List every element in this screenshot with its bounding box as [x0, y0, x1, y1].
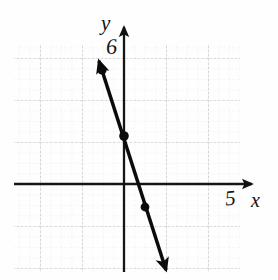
- x-axis-tick-label: 5: [224, 188, 237, 210]
- major-gridlines: [14, 44, 240, 272]
- graph-figure: y x 6 5: [0, 0, 278, 280]
- data-point: [97, 65, 106, 74]
- data-point: [141, 203, 150, 212]
- y-axis-label: y: [101, 13, 110, 34]
- x-axis-label: x: [251, 190, 260, 210]
- grid-layer: [14, 44, 240, 272]
- y-axis-tick-label: 6: [105, 36, 118, 59]
- data-point: [119, 131, 129, 141]
- coordinate-plane: [0, 0, 278, 280]
